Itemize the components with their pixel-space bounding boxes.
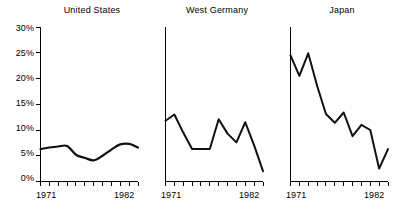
axes-united-states bbox=[36, 27, 138, 186]
x-ticks-japan bbox=[291, 182, 389, 186]
series-line-japan bbox=[291, 53, 389, 168]
series-line-united-states bbox=[41, 144, 139, 161]
y-ticks-united-states bbox=[36, 27, 41, 182]
x-ticks-west-germany bbox=[166, 182, 264, 186]
x-ticks-united-states bbox=[41, 182, 139, 186]
axes-japan bbox=[291, 27, 389, 186]
axes-west-germany bbox=[166, 27, 264, 186]
small-multiples-figure: 30% 25% 20% 15% 10% 5% 0% United States … bbox=[0, 0, 407, 213]
plot-svg bbox=[0, 0, 407, 213]
series-line-west-germany bbox=[166, 115, 264, 172]
